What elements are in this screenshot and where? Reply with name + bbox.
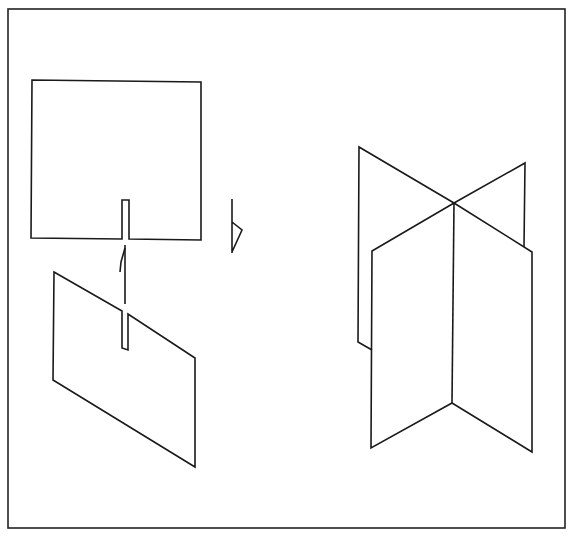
assembled-cross xyxy=(358,147,532,452)
assembly-arrow xyxy=(120,245,125,304)
diagram-canvas xyxy=(0,0,572,536)
bottom-slotted-card xyxy=(53,272,195,467)
figure-frame xyxy=(8,9,565,528)
top-slotted-card xyxy=(31,80,201,240)
edge-view-card xyxy=(232,199,242,253)
